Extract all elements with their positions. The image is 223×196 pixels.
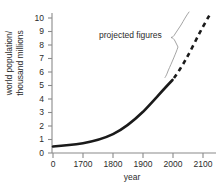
x-axis-ticks <box>53 153 203 158</box>
projected-figures-annotation: projected figures <box>99 30 162 40</box>
y-tick-label-10: 10 <box>24 14 44 23</box>
y-tick-label-1: 1 <box>30 135 44 144</box>
y-tick-label-5: 5 <box>30 81 44 90</box>
y-tick-label-9: 9 <box>30 27 44 36</box>
annotation-leader-line <box>165 12 189 78</box>
historical-population-curve <box>53 80 173 147</box>
world-population-chart: 0 1 2 3 4 5 6 7 8 9 10 0 1700 1800 1900 … <box>0 0 223 196</box>
y-axis-title: world population/ thousand millions <box>4 8 26 118</box>
x-tick-label-2100: 2100 <box>188 160 218 169</box>
x-tick-label-1800: 1800 <box>98 160 128 169</box>
x-tick-label-2000: 2000 <box>158 160 188 169</box>
y-tick-label-0: 0 <box>30 149 44 158</box>
y-tick-label-6: 6 <box>30 68 44 77</box>
x-axis-title: year <box>52 172 212 182</box>
y-tick-label-4: 4 <box>30 95 44 104</box>
y-tick-label-8: 8 <box>30 41 44 50</box>
y-axis-title-line2: thousand millions <box>15 8 26 118</box>
x-tick-label-1900: 1900 <box>128 160 158 169</box>
x-tick-label-0: 0 <box>38 160 68 169</box>
y-tick-label-3: 3 <box>30 108 44 117</box>
y-tick-label-2: 2 <box>30 122 44 131</box>
x-tick-label-1700: 1700 <box>68 160 98 169</box>
projected-population-curve <box>174 14 211 79</box>
y-axis-title-line1: world population/ <box>4 8 15 118</box>
y-axis-ticks <box>48 18 52 153</box>
y-tick-label-7: 7 <box>30 54 44 63</box>
